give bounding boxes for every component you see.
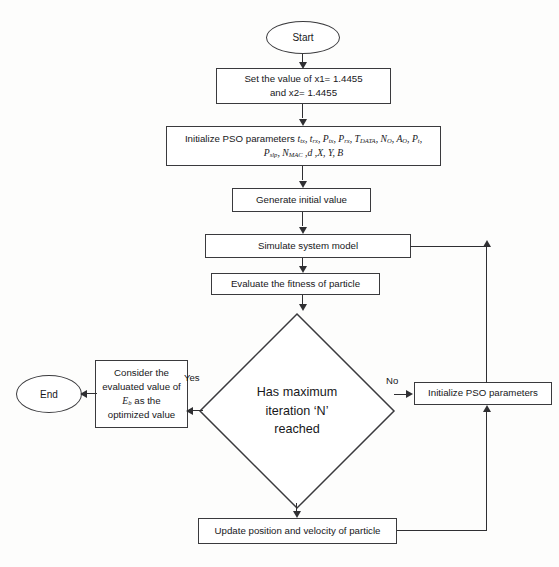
node-reinit-params[interactable]: Initialize PSO parameters	[414, 382, 552, 405]
node-end-label: End	[40, 389, 58, 400]
arrowhead-decision-yes-to-consider	[186, 407, 193, 415]
node-end[interactable]: End	[16, 375, 82, 413]
node-consider-line3: Eb as the	[122, 394, 160, 408]
edge-label-yes: Yes	[184, 372, 200, 383]
arrowhead-evaluate-to-decision	[299, 304, 307, 311]
edge-reinit-up-to-toprail	[486, 247, 487, 383]
node-generate-initial[interactable]: Generate initial value	[232, 188, 371, 212]
edge-simulate-to-evaluate	[302, 258, 303, 266]
edge-setvalues-to-initparams	[302, 104, 303, 118]
arrowhead-start-to-setvalues	[299, 62, 307, 69]
node-init-params-line1: Initialize PSO parameters ttx, trx, Ptx,…	[185, 132, 422, 146]
flowchart-page: Start Set the value of x1= 1.4455 and x2…	[0, 0, 559, 567]
edge-label-no: No	[386, 375, 398, 386]
node-init-params[interactable]: Initialize PSO parameters ttx, trx, Ptx,…	[166, 126, 441, 166]
node-consider[interactable]: Consider the evaluated value of Eb as th…	[95, 360, 188, 428]
node-simulate-label: Simulate system model	[258, 239, 358, 253]
node-start[interactable]: Start	[266, 21, 340, 54]
node-simulate[interactable]: Simulate system model	[205, 234, 411, 258]
arrowhead-simulate-to-evaluate	[299, 266, 307, 273]
edge-rightrail-up-to-reinit	[486, 412, 487, 531]
node-evaluate-label: Evaluate the fitness of particle	[231, 277, 360, 291]
edge-generate-to-simulate	[302, 212, 303, 226]
edge-toprail-to-simulate	[410, 246, 487, 247]
arrowhead-consider-to-end	[80, 390, 87, 398]
node-set-values-line1: Set the value of x1= 1.4455	[244, 72, 362, 86]
arrowhead-setvalues-to-initparams	[299, 119, 307, 126]
node-consider-line2: evaluated value of	[102, 380, 181, 394]
node-set-values-line2: and x2= 1.4455	[270, 86, 337, 100]
arrowhead-decision-no-to-reinit	[406, 390, 413, 398]
arrowhead-decision-to-update	[293, 511, 301, 518]
edge-update-to-rightrail	[397, 530, 487, 531]
node-evaluate[interactable]: Evaluate the fitness of particle	[211, 273, 380, 295]
node-init-params-prefix: Initialize PSO parameters	[185, 133, 298, 144]
node-reinit-params-label: Initialize PSO parameters	[428, 386, 538, 400]
node-update-label: Update position and velocity of particle	[215, 524, 381, 538]
arrowhead-rightrail-to-reinit	[483, 405, 491, 412]
decision-diamond-shape	[198, 312, 396, 510]
node-generate-initial-label: Generate initial value	[256, 193, 347, 207]
node-set-values[interactable]: Set the value of x1= 1.4455 and x2= 1.44…	[216, 68, 391, 104]
node-consider-line4: optimized value	[108, 408, 175, 422]
node-init-params-line2: Pslp, NMAC ,d ,X, Y, B	[264, 146, 343, 160]
node-consider-line1: Consider the	[114, 366, 169, 380]
arrowhead-generate-to-simulate	[299, 227, 307, 234]
edge-initparams-to-generate	[302, 166, 303, 180]
node-start-label: Start	[292, 32, 313, 43]
arrowhead-initparams-to-generate	[299, 181, 307, 188]
node-decision[interactable]: Has maximum iteration ‘N’ reached	[198, 312, 396, 510]
node-update[interactable]: Update position and velocity of particle	[198, 518, 397, 544]
